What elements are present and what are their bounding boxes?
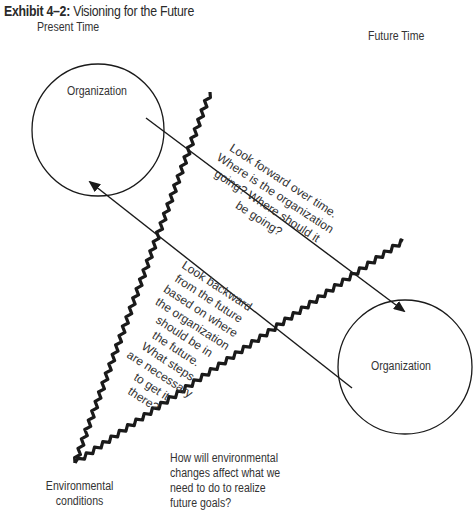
question-line: changes affect what we — [170, 466, 280, 481]
environmental-conditions-label: Environmental conditions — [40, 479, 119, 509]
question-line: How will environmental — [170, 451, 280, 466]
present-organization-label: Organization — [67, 84, 127, 98]
environmental-question: How will environmental changes affect wh… — [170, 451, 280, 511]
future-organization-label: Organization — [371, 359, 431, 373]
diagram-canvas — [0, 0, 475, 524]
question-line: need to do to realize — [170, 481, 280, 496]
question-line: future goals? — [170, 496, 280, 511]
env-label-line: conditions — [40, 494, 119, 509]
env-label-line: Environmental — [40, 479, 119, 494]
